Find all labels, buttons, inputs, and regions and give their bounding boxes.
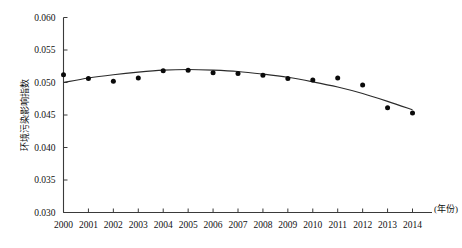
x-tick-label: 2005 [179,220,198,230]
data-point [260,73,265,78]
chart-figure: 0.0300.0350.0400.0450.0500.0550.060 2000… [0,0,462,248]
y-axis-ticks [64,18,68,213]
x-tick-label: 2011 [328,220,347,230]
x-tick-label: 2007 [229,220,248,230]
y-axis-title: 环境污染影响指数 [19,79,30,151]
y-tick-label: 0.050 [34,78,56,88]
x-tick-label: 2003 [129,220,148,230]
y-tick-label: 0.035 [34,175,56,185]
x-tick-label: 2012 [353,220,372,230]
x-tick-label: 2001 [79,220,98,230]
x-tick-label: 2009 [278,220,297,230]
x-tick-label: 2013 [378,220,397,230]
data-point [186,68,191,73]
data-point [360,83,365,88]
plot-axes [64,18,433,213]
data-point [161,68,166,73]
x-tick-label: 2010 [303,220,322,230]
data-point [285,76,290,81]
scatter-plot-canvas: 0.0300.0350.0400.0450.0500.0550.060 2000… [0,0,462,248]
x-axis-ticks [64,209,413,213]
x-tick-label: 2008 [253,220,272,230]
data-point [211,70,216,75]
x-axis-tick-labels: 2000200120022003200420052006200720082009… [54,220,422,230]
x-tick-label: 2002 [104,220,123,230]
y-tick-label: 0.055 [34,45,56,55]
y-axis-tick-labels: 0.0300.0350.0400.0450.0500.0550.060 [34,13,56,218]
data-point [310,77,315,82]
x-tick-label: 2004 [154,220,173,230]
data-point [61,72,66,77]
axis-titles: 环境污染影响指数 (年份) [19,79,458,214]
x-tick-label: 2000 [54,220,73,230]
data-point [236,71,241,76]
y-tick-label: 0.030 [34,208,56,218]
data-point [335,75,340,80]
x-tick-label: 2014 [403,220,422,230]
y-tick-label: 0.045 [34,110,56,120]
x-tick-label: 2006 [204,220,223,230]
y-tick-label: 0.060 [34,13,56,23]
data-point [136,75,141,80]
y-tick-label: 0.040 [34,143,56,153]
data-point [111,79,116,84]
data-point [410,111,415,116]
data-point [385,105,390,110]
data-point [86,76,91,81]
x-axis-title: (年份) [434,203,458,214]
